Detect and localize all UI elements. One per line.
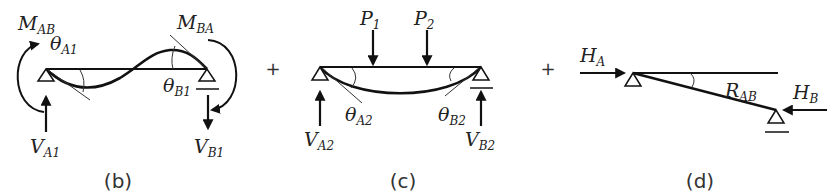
roller-support-b-b (199, 69, 215, 81)
tangent-b-b (170, 35, 207, 69)
label-p2: P2 (413, 7, 434, 32)
label-theta-b2: θB2 (438, 103, 466, 128)
label-v-a1: VA1 (30, 135, 60, 160)
label-theta-a2: θA2 (345, 103, 373, 128)
plus-operator-2: + (540, 58, 555, 79)
panel-b: MAB θA1 MBA θB1 VA1 VB1 (b) (17, 11, 236, 193)
angle-arc-b-c (450, 68, 454, 81)
label-v-b1: VB1 (194, 135, 224, 160)
superposition-diagram: MAB θA1 MBA θB1 VA1 VB1 (b) + P1 P2 θA2 … (0, 0, 834, 196)
label-p1: P1 (359, 7, 380, 32)
label-m-ba: MBA (176, 11, 214, 36)
plus-operator-1: + (265, 58, 280, 79)
caption-b: (b) (104, 169, 132, 193)
deflected-shape-c (320, 67, 481, 93)
caption-d: (d) (686, 169, 714, 193)
panel-d: HA RAB HB (d) (579, 44, 827, 193)
moment-arrow-b-b (208, 40, 236, 110)
rotation-arc-d (690, 73, 694, 87)
label-r-ab: RAB (724, 79, 757, 104)
label-h-a: HA (579, 44, 606, 69)
tangent-a-c (322, 68, 362, 103)
label-v-a2: VA2 (304, 128, 334, 153)
label-theta-b1: θB1 (163, 74, 191, 99)
label-h-b: HB (792, 81, 819, 106)
roller-support-b-d (768, 110, 784, 123)
angle-arc-a-b (80, 70, 84, 92)
panel-c: P1 P2 θA2 θB2 VA2 VB2 (c) (304, 7, 495, 193)
label-theta-a1: θA1 (50, 32, 78, 57)
caption-c: (c) (390, 169, 417, 193)
label-v-b2: VB2 (465, 128, 495, 153)
